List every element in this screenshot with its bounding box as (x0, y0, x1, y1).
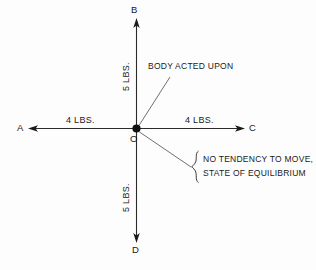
annotation-equilibrium-line-2: STATE OF EQUILIBRIUM (203, 169, 306, 178)
diagram-canvas (0, 0, 316, 270)
force-label-left: 4 LBS. (66, 116, 95, 125)
force-label-right: 4 LBS. (185, 116, 214, 125)
axis-label-a: A (17, 123, 24, 133)
force-label-up: 5 LBS. (122, 62, 131, 91)
origin-label: O (130, 134, 138, 144)
axis-label-d: D (132, 245, 139, 255)
force-diagram: A B C D O 4 LBS. 4 LBS. 5 LBS. 5 LBS. BO… (0, 0, 316, 270)
leader-line-body-callout (139, 77, 170, 126)
origin-body-dot (132, 124, 140, 132)
axis-label-b: B (131, 5, 138, 15)
leader-line-equilibrium-callout (140, 132, 192, 167)
equilibrium-brace (192, 151, 199, 183)
annotation-body-acted-upon: BODY ACTED UPON (148, 62, 233, 71)
axis-label-c: C (249, 123, 256, 133)
force-label-down: 5 LBS. (122, 183, 131, 212)
annotation-equilibrium-line-1: NO TENDENCY TO MOVE, (203, 155, 313, 164)
